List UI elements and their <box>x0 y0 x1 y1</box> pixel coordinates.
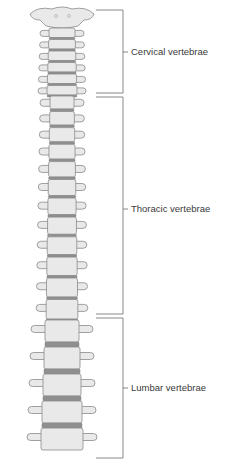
bracket-lumbar <box>96 318 128 458</box>
vertebra-c4 <box>39 51 85 61</box>
vertebra-t6 <box>38 180 86 196</box>
label-lumbar-vertebrae: Lumbar vertebrae <box>131 383 206 393</box>
vertebra-c3 <box>40 40 85 50</box>
intervertebral-disc <box>43 396 81 401</box>
region-brackets <box>96 10 128 458</box>
intervertebral-disc <box>44 369 80 374</box>
vertebra-l2 <box>30 347 94 369</box>
vertebra-t8 <box>38 217 87 234</box>
vertebra-l1 <box>31 320 93 342</box>
vertebra-l5 <box>27 428 97 450</box>
label-cervical-vertebrae: Cervical vertebrae <box>131 47 208 57</box>
vertebra-t5 <box>39 162 86 177</box>
vertebra-t1 <box>40 96 84 109</box>
label-thoracic-vertebrae: Thoracic vertebrae <box>131 204 210 214</box>
vertebra-c6 <box>38 74 85 84</box>
vertebra-t4 <box>39 144 85 159</box>
vertebra-t12 <box>36 300 88 320</box>
bracket-cervical <box>96 10 128 93</box>
vertebra-c7 <box>38 86 86 96</box>
intervertebral-disc <box>42 423 82 428</box>
vertebra-c5 <box>39 63 85 73</box>
vertebral-column <box>27 7 97 450</box>
vertebra-c2 <box>40 28 84 38</box>
vertebra-t2 <box>40 112 85 126</box>
vertebra-t10 <box>37 257 87 275</box>
intervertebral-disc <box>45 342 79 347</box>
vertebra-t7 <box>38 198 86 215</box>
spine-diagram <box>0 0 238 474</box>
vertebra-t3 <box>39 128 84 142</box>
vertebra-l3 <box>29 374 95 396</box>
vertebra-t11 <box>37 278 88 297</box>
vertebra-c1 <box>30 7 94 28</box>
vertebra-l4 <box>28 401 96 423</box>
vertebra-t9 <box>37 237 87 255</box>
bracket-thoracic <box>96 97 128 314</box>
